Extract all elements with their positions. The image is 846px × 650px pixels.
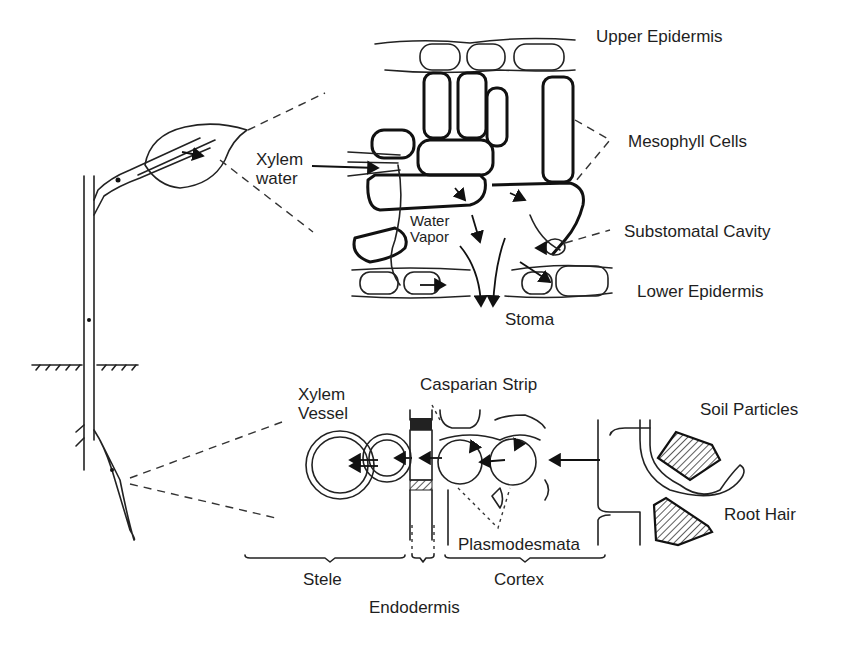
label-water-vapor: Water Vapor	[410, 213, 449, 245]
label-stoma: Stoma	[505, 310, 554, 329]
label-xylem-vessel: Xylem Vessel	[298, 385, 348, 423]
label-upper-epidermis: Upper Epidermis	[596, 27, 723, 46]
diagram-drawing	[0, 0, 846, 650]
label-cortex: Cortex	[494, 570, 544, 589]
leaf-cross-section	[312, 39, 612, 306]
label-plasmodesmata: Plasmodesmata	[458, 535, 580, 554]
root-zoom-line-bottom	[130, 484, 276, 518]
label-lower-epidermis: Lower Epidermis	[637, 282, 764, 301]
label-root-hair: Root Hair	[724, 505, 796, 524]
label-casparian-strip: Casparian Strip	[420, 375, 537, 394]
label-mesophyll-cells: Mesophyll Cells	[628, 132, 747, 151]
plant-stem	[76, 138, 210, 540]
label-endodermis: Endodermis	[369, 598, 460, 617]
label-xylem-water: Xylem water	[256, 150, 303, 188]
root-zoom-line-top	[130, 422, 282, 478]
plant-water-transport-diagram: Xylem water Upper Epidermis Mesophyll Ce…	[0, 0, 846, 650]
label-soil-particles: Soil Particles	[700, 400, 798, 419]
ground-line	[32, 365, 138, 370]
label-stele: Stele	[303, 570, 342, 589]
label-substomatal-cavity: Substomatal Cavity	[624, 222, 770, 241]
leaf-zoom-line-top	[248, 93, 325, 130]
